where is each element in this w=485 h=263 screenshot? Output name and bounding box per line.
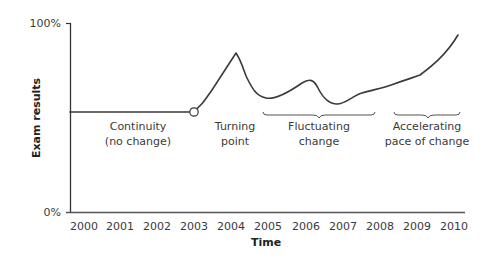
x-tick-label: 2005 <box>254 220 282 233</box>
data-line <box>70 35 458 112</box>
x-tick-label: 2004 <box>217 220 245 233</box>
x-tick-label: 2007 <box>329 220 357 233</box>
x-tick-label: 2001 <box>106 220 134 233</box>
annotation-turning-line1: Turning <box>214 120 255 133</box>
x-tick-label: 2008 <box>366 220 394 233</box>
y-tick-label-100: 100% <box>30 17 61 30</box>
annotation-fluctuating-line1: Fluctuating <box>288 120 350 133</box>
x-tick-labels: 2000 2001 2002 2003 2004 2005 2006 2007 … <box>70 220 468 233</box>
x-tick-label: 2009 <box>403 220 431 233</box>
y-axis-title: Exam results <box>30 77 43 158</box>
y-tick-label-0: 0% <box>44 206 61 219</box>
line-chart: 100% 0% Exam results 2000 2001 2002 2003… <box>0 0 485 263</box>
x-tick-label: 2006 <box>292 220 320 233</box>
annotation-fluctuating-line2: change <box>299 135 340 148</box>
x-tick-label: 2010 <box>440 220 468 233</box>
annotation-turning-line2: point <box>221 135 250 148</box>
x-axis-title: Time <box>251 236 281 249</box>
bracket-accelerating-icon <box>394 112 460 118</box>
annotation-accelerating-line1: Accelerating <box>393 120 462 133</box>
x-tick-label: 2000 <box>70 220 98 233</box>
annotation-continuity-line1: Continuity <box>110 120 167 133</box>
turning-point-marker-icon <box>190 108 198 116</box>
x-tick-label: 2002 <box>143 220 171 233</box>
x-tick-label: 2003 <box>180 220 208 233</box>
annotation-accelerating-line2: pace of change <box>385 135 470 148</box>
annotation-continuity-line2: (no change) <box>105 135 171 148</box>
bracket-fluctuating-icon <box>263 112 375 118</box>
